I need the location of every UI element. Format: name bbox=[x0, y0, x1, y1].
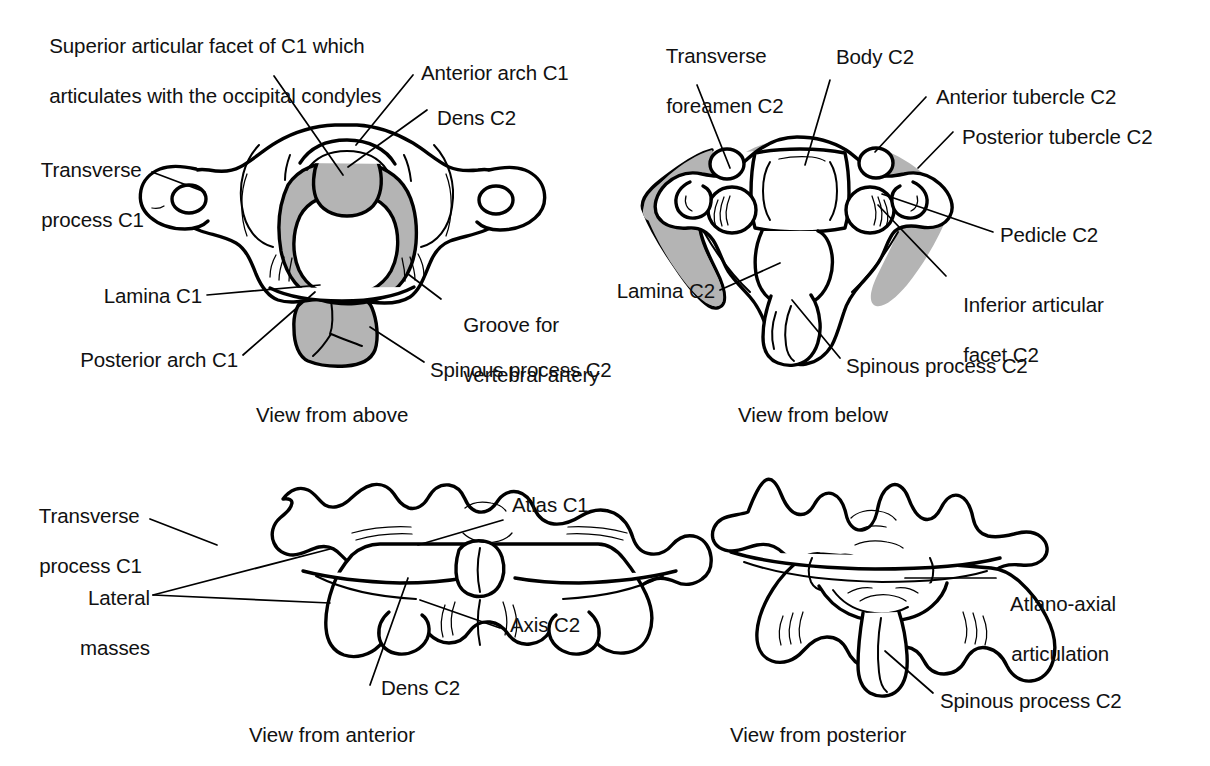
label-line: Transverse bbox=[39, 504, 140, 527]
label-transverse-process-c1-above: Transverse process C1 bbox=[30, 132, 144, 232]
leader-anterior-tubercle bbox=[875, 97, 926, 152]
leader-posterior-tubercle bbox=[918, 132, 953, 168]
label-body-c2: Body C2 bbox=[836, 44, 914, 69]
caption-view-from-above: View from above bbox=[256, 402, 408, 427]
label-line: articulates with the occipital condyles bbox=[49, 84, 381, 107]
drawing-anterior-view bbox=[272, 484, 711, 656]
anatomy-figure: Superior articular facet of C1 which art… bbox=[0, 0, 1210, 766]
label-line: Atlano-axial bbox=[1010, 592, 1116, 615]
label-anterior-arch-c1: Anterior arch C1 bbox=[421, 60, 569, 85]
label-line: Transverse bbox=[41, 158, 142, 181]
transverse-foramen-c1-left bbox=[172, 185, 206, 213]
spinous-process-c2-posterior bbox=[858, 612, 907, 696]
transverse-foramen-c2-left bbox=[710, 149, 744, 179]
label-line: Inferior articular bbox=[963, 293, 1104, 316]
label-pedicle-c2: Pedicle C2 bbox=[1000, 222, 1098, 247]
pedicle-c2-left bbox=[676, 182, 711, 218]
label-line: process C1 bbox=[41, 208, 144, 231]
label-axis-c2: Axis C2 bbox=[510, 612, 580, 637]
label-posterior-arch-c1: Posterior arch C1 bbox=[10, 347, 238, 372]
label-atlano-axial-articulation: Atlano-axial articulation bbox=[1000, 566, 1116, 666]
label-dens-c2-anterior: Dens C2 bbox=[381, 675, 460, 700]
leader-transverse-process-c1-ant bbox=[150, 519, 217, 545]
label-line: Groove for bbox=[463, 313, 559, 336]
label-transverse-foreamen-c2: Transverse foreamen C2 bbox=[655, 18, 784, 118]
label-spinous-process-c2-above: Spinous process C2 bbox=[430, 357, 612, 382]
caption-view-from-anterior: View from anterior bbox=[249, 722, 415, 747]
label-posterior-tubercle-c2: Posterior tubercle C2 bbox=[962, 124, 1152, 149]
label-lamina-c2: Lamina C2 bbox=[560, 278, 715, 303]
transverse-foramen-c1-right bbox=[479, 186, 513, 214]
label-inferior-articular-facet-c2: Inferior articular facet C2 bbox=[952, 267, 1104, 367]
axis-lobe-left bbox=[379, 612, 429, 654]
label-line: articulation bbox=[1011, 642, 1109, 665]
caption-view-from-posterior: View from posterior bbox=[730, 722, 906, 747]
label-lateral-masses: Lateral masses bbox=[10, 560, 150, 660]
body-c2 bbox=[751, 149, 849, 232]
label-superior-articular-facet: Superior articular facet of C1 which art… bbox=[38, 8, 381, 108]
label-line: Superior articular facet of C1 which bbox=[49, 34, 364, 57]
label-dens-c2-above: Dens C2 bbox=[437, 105, 516, 130]
leader-lateral-masses-lower bbox=[153, 595, 330, 603]
label-spinous-process-c2-posterior: Spinous process C2 bbox=[940, 688, 1122, 713]
drawing-axis-inferior bbox=[642, 137, 952, 365]
label-line: foreamen C2 bbox=[666, 94, 783, 117]
label-line: Lateral bbox=[88, 586, 150, 609]
label-line: masses bbox=[80, 636, 150, 659]
transverse-foramen-c2-right bbox=[859, 148, 893, 178]
label-anterior-tubercle-c2: Anterior tubercle C2 bbox=[936, 84, 1116, 109]
caption-view-from-below: View from below bbox=[738, 402, 888, 427]
label-lamina-c1: Lamina C1 bbox=[10, 283, 202, 308]
label-line: Transverse bbox=[666, 44, 767, 67]
label-atlas-c1: Atlas C1 bbox=[512, 492, 589, 517]
label-spinous-process-c2-below: Spinous process C2 bbox=[846, 353, 1028, 378]
